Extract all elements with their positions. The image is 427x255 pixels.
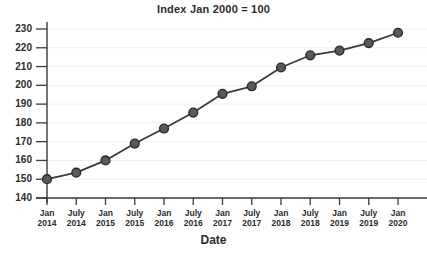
data-point-marker: [364, 39, 373, 48]
y-axis-tick-label: 200: [2, 79, 32, 90]
y-axis-tick-label: 160: [2, 154, 32, 165]
y-axis-tick-label: 180: [2, 117, 32, 128]
x-axis-title: Date: [0, 233, 427, 247]
data-point-marker: [72, 168, 81, 177]
data-point-marker: [160, 124, 169, 133]
data-point-marker: [130, 139, 139, 148]
data-point-marker: [394, 28, 403, 37]
series-line-index: [47, 33, 398, 179]
x-axis-ticks: [47, 198, 398, 205]
line-chart: Index Jan 2000 = 100 2302202102001901801…: [0, 0, 427, 255]
x-tick-month: Jan: [376, 208, 420, 218]
data-point-marker: [189, 108, 198, 117]
y-axis-tick-label: 170: [2, 136, 32, 147]
y-axis-tick-label: 220: [2, 42, 32, 53]
y-axis-tick-label: 230: [2, 23, 32, 34]
x-axis-tick-label: Jan2020: [376, 208, 420, 228]
data-point-marker: [335, 46, 344, 55]
y-axis-tick-label: 150: [2, 173, 32, 184]
data-point-marker: [218, 89, 227, 98]
y-axis-tick-label: 210: [2, 61, 32, 72]
y-axis-tick-label: 190: [2, 98, 32, 109]
data-point-marker: [277, 63, 286, 72]
data-point-marker: [247, 82, 256, 91]
data-point-marker: [43, 175, 52, 184]
y-axis-ticks: [36, 29, 47, 198]
data-point-marker: [101, 156, 110, 165]
y-axis-tick-label: 140: [2, 192, 32, 203]
data-point-marker: [306, 51, 315, 60]
x-tick-year: 2020: [376, 218, 420, 228]
